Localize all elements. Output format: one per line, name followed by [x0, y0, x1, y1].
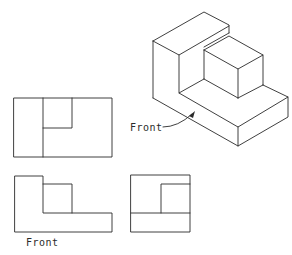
orthographic-drawing: Front Front — [0, 0, 292, 255]
leader-arrow-icon — [189, 111, 195, 118]
isometric-view: Front — [130, 12, 288, 146]
front-view: Front — [15, 176, 112, 248]
front-view-label: Front — [26, 237, 59, 248]
top-view — [14, 98, 112, 157]
isometric-front-label: Front — [130, 122, 163, 133]
right-side-view — [131, 175, 190, 232]
